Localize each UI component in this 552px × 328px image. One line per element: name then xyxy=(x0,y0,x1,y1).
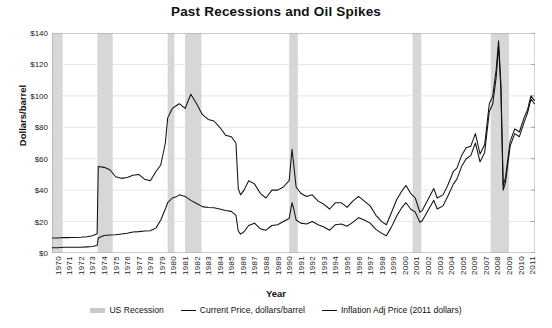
y-axis-tick: $20 xyxy=(35,217,48,226)
x-axis-tick: 2000 xyxy=(401,256,410,275)
x-axis-tick: 1988 xyxy=(262,256,271,275)
legend-label: Current Price, dollars/barrel xyxy=(200,305,305,315)
x-axis-tick: 1999 xyxy=(389,256,398,275)
legend-label: US Recession xyxy=(109,305,163,315)
x-axis-tick: 1989 xyxy=(274,256,283,275)
recession-band xyxy=(413,33,422,253)
line-swatch-icon xyxy=(181,310,196,311)
x-axis-tick: 2006 xyxy=(470,256,479,275)
x-axis-label: Year xyxy=(0,288,552,299)
x-axis-tick: 1980 xyxy=(169,256,178,275)
x-axis-tick: 2001 xyxy=(412,256,421,275)
x-axis-tick: 1974 xyxy=(100,256,109,275)
y-axis-tick: $100 xyxy=(30,91,48,100)
x-axis-tick: 1985 xyxy=(227,256,236,275)
x-axis-tick: 1996 xyxy=(355,256,364,275)
x-axis-tick: 1995 xyxy=(343,256,352,275)
x-axis-tick: 1975 xyxy=(112,256,121,275)
recession-band xyxy=(97,33,112,253)
x-axis-tick: 2008 xyxy=(493,256,502,275)
x-axis-tick: 1973 xyxy=(88,256,97,275)
x-axis-tick: 1971 xyxy=(65,256,74,275)
x-axis-tick: 1990 xyxy=(285,256,294,275)
x-axis-tick: 2004 xyxy=(447,256,456,275)
x-axis-tick: 2007 xyxy=(482,256,491,275)
x-axis-tick: 1970 xyxy=(54,256,63,275)
plot-area: $0$20$40$60$80$100$120$14019701971197219… xyxy=(52,33,535,253)
y-axis-tick: $60 xyxy=(35,154,48,163)
x-axis-tick: 1982 xyxy=(193,256,202,275)
chart-canvas xyxy=(52,33,535,253)
x-axis-tick: 1981 xyxy=(181,256,190,275)
x-axis-tick: 2011 xyxy=(528,256,537,274)
x-axis-tick: 2003 xyxy=(436,256,445,275)
x-axis-tick: 2010 xyxy=(517,256,526,275)
legend-label: Inflation Adj Price (2011 dollars) xyxy=(341,305,462,315)
y-axis-tick: $0 xyxy=(39,249,48,258)
legend-item: Current Price, dollars/barrel xyxy=(181,305,305,315)
y-axis-tick: $80 xyxy=(35,123,48,132)
recession-band xyxy=(168,33,175,253)
x-axis-tick: 2002 xyxy=(424,256,433,275)
x-axis-tick: 1992 xyxy=(308,256,317,275)
x-axis-tick: 1972 xyxy=(77,256,86,275)
x-axis-tick: 1984 xyxy=(216,256,225,275)
recession-swatch-icon xyxy=(90,308,105,313)
chart-legend: US RecessionCurrent Price, dollars/barre… xyxy=(0,305,552,315)
x-axis-tick: 1997 xyxy=(366,256,375,275)
x-axis-tick: 1976 xyxy=(123,256,132,275)
legend-item: US Recession xyxy=(90,305,163,315)
x-axis-tick: 2009 xyxy=(505,256,514,275)
y-axis-tick: $40 xyxy=(35,186,48,195)
y-axis-label: Dollars/barrel xyxy=(17,56,28,176)
recession-band xyxy=(185,33,201,253)
recession-band xyxy=(52,33,63,253)
x-axis-tick: 1991 xyxy=(297,256,306,275)
x-axis-tick: 1978 xyxy=(146,256,155,275)
x-axis-tick: 1998 xyxy=(378,256,387,275)
y-axis-tick: $120 xyxy=(30,60,48,69)
x-axis-tick: 1979 xyxy=(158,256,167,275)
x-axis-tick: 1977 xyxy=(135,256,144,275)
oil-price-chart: Past Recessions and Oil Spikes Dollars/b… xyxy=(0,0,552,328)
page-title: Past Recessions and Oil Spikes xyxy=(0,4,552,19)
line-swatch-icon xyxy=(322,310,337,311)
y-axis-tick: $140 xyxy=(30,29,48,38)
x-axis-tick: 2005 xyxy=(459,256,468,275)
legend-item: Inflation Adj Price (2011 dollars) xyxy=(322,305,462,315)
x-axis-tick: 1986 xyxy=(239,256,248,275)
x-axis-tick: 1993 xyxy=(320,256,329,275)
x-axis-tick: 1983 xyxy=(204,256,213,275)
x-axis-tick: 1994 xyxy=(331,256,340,275)
x-axis-tick: 1987 xyxy=(250,256,259,275)
